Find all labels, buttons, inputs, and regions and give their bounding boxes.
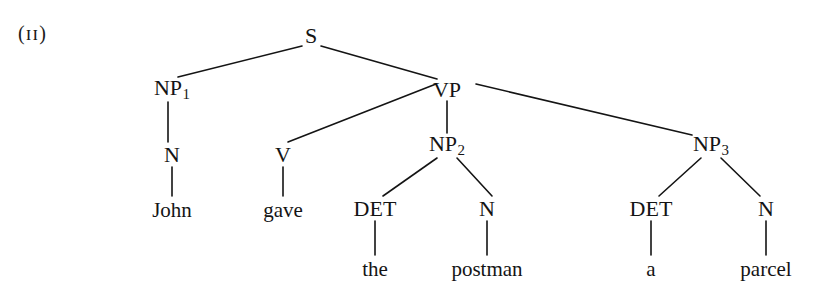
tree-leaf-postman: postman — [451, 259, 522, 280]
tree-node-label: DET — [630, 196, 673, 221]
tree-leaf-a: a — [646, 259, 655, 280]
tree-node-v: V — [275, 144, 291, 166]
tree-node-label: N — [479, 196, 495, 221]
tree-node-label: N — [758, 196, 774, 221]
tree-node-subscript: 2 — [457, 143, 465, 159]
tree-node-n3: N — [758, 198, 774, 220]
tree-node-n1: N — [164, 144, 180, 166]
syntax-tree-figure: (ɪɪ) SNP1VPNVNP2NP3DETNDETN Johngavethep… — [0, 0, 814, 301]
tree-edge-np3-to-det2 — [659, 158, 701, 196]
tree-node-np3: NP3 — [693, 133, 729, 158]
tree-leaf-gave: gave — [263, 200, 303, 221]
tree-edge-s-to-vp — [321, 46, 437, 79]
tree-leaf-the: the — [362, 259, 388, 280]
tree-edge-s-to-np1 — [178, 46, 302, 77]
tree-node-subscript: 3 — [721, 143, 729, 159]
tree-node-det1: DET — [354, 198, 397, 220]
tree-node-label: NP — [154, 75, 182, 100]
tree-node-label: NP — [429, 131, 457, 156]
tree-node-s: S — [305, 25, 317, 47]
tree-edge-np3-to-n3 — [721, 158, 760, 196]
tree-node-label: S — [305, 23, 317, 48]
tree-edge-vp-to-np3 — [476, 84, 692, 135]
tree-node-np2: NP2 — [429, 133, 465, 158]
tree-edge-vp-to-v — [288, 84, 436, 142]
tree-node-subscript: 1 — [182, 87, 190, 103]
tree-node-label: V — [275, 142, 291, 167]
tree-node-det2: DET — [630, 198, 673, 220]
tree-edge-np2-to-det1 — [383, 158, 437, 196]
tree-edges — [0, 0, 814, 301]
tree-leaf-parcel: parcel — [740, 259, 791, 280]
tree-node-n2: N — [479, 198, 495, 220]
tree-node-label: NP — [693, 131, 721, 156]
tree-edge-np2-to-n2 — [457, 158, 492, 196]
tree-node-label: N — [164, 142, 180, 167]
tree-node-label: VP — [433, 77, 461, 102]
tree-leaf-john: John — [152, 200, 192, 221]
tree-node-np1: NP1 — [154, 77, 190, 102]
tree-node-label: DET — [354, 196, 397, 221]
tree-node-vp: VP — [433, 79, 461, 101]
